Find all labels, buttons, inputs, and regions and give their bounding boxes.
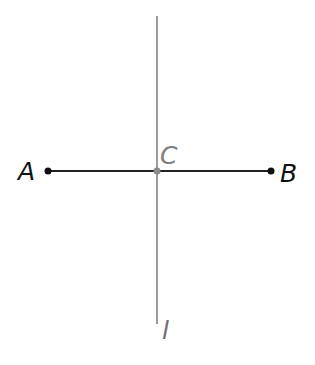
label-l: l	[162, 316, 169, 345]
label-a: A	[16, 157, 35, 186]
label-c: C	[160, 141, 178, 170]
diagram-canvas: A B C l	[0, 0, 315, 365]
label-b: B	[280, 159, 297, 188]
point-b	[268, 168, 275, 175]
point-a	[45, 168, 52, 175]
